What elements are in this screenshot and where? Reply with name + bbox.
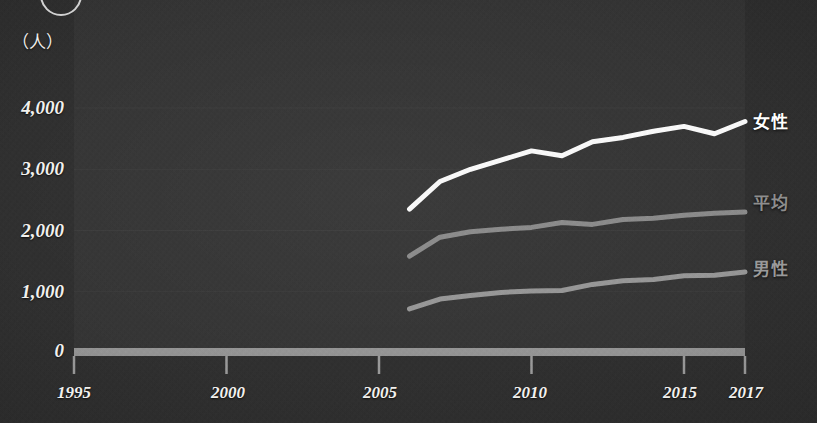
y-tick-label-3000: 3,000 xyxy=(0,158,64,180)
legend-label-female: 女性 xyxy=(753,108,788,133)
series-lines xyxy=(410,122,746,309)
series-line-女性 xyxy=(410,122,746,210)
y-tick-label-2000: 2,000 xyxy=(0,220,64,242)
x-tick-label-2005: 2005 xyxy=(340,383,420,403)
x-tick-label-1995: 1995 xyxy=(34,383,114,403)
x-tick-label-2017: 2017 xyxy=(706,383,786,403)
y-axis-unit-label: （人） xyxy=(12,28,63,53)
series-line-男性 xyxy=(410,272,746,309)
y-tick-label-4000: 4,000 xyxy=(0,97,64,119)
y-tick-label-0: 0 xyxy=(0,340,64,362)
x-tick-label-2000: 2000 xyxy=(188,383,268,403)
legend-label-average: 平均 xyxy=(753,189,788,214)
series-line-平均 xyxy=(410,212,746,256)
x-axis-ticks xyxy=(74,356,745,374)
legend-label-male: 男性 xyxy=(753,255,788,280)
x-axis-baseline xyxy=(74,348,745,356)
x-tick-label-2010: 2010 xyxy=(490,383,570,403)
y-tick-label-1000: 1,000 xyxy=(0,281,64,303)
chart-screenshot: （人） 4,000 3,000 2,000 1,000 0 1995 2000 … xyxy=(0,0,817,423)
line-chart xyxy=(0,0,817,423)
